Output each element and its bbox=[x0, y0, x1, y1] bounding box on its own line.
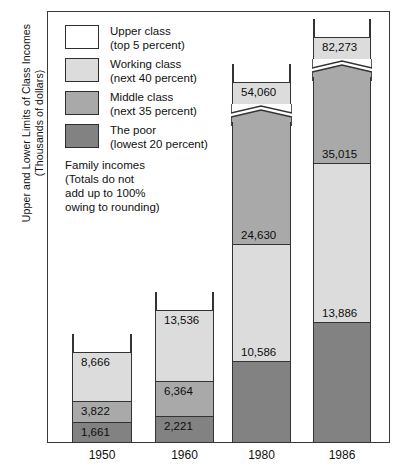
bar-1986-working-value: 82,273 bbox=[322, 41, 357, 53]
legend-item-middle: Middle class (next 35 percent) bbox=[65, 91, 255, 118]
legend-title-poor: The poor bbox=[110, 124, 156, 136]
bar-1950-poor-segment: 1,661 bbox=[72, 422, 132, 443]
legend-title-middle: Middle class bbox=[110, 91, 173, 103]
bar-1986: 82,273 35,015 13,886 bbox=[313, 37, 371, 443]
x-axis-label-1960: 1960 bbox=[155, 448, 214, 462]
bar-1980-middle-value: 24,630 bbox=[241, 229, 276, 241]
y-axis-label: Upper and Lower Limits of Class Incomes … bbox=[20, 0, 46, 248]
legend-item-poor: The poor (lowest 20 percent) bbox=[65, 124, 255, 151]
bar-1950: 8,666 3,822 1,661 bbox=[72, 352, 132, 443]
legend-swatch-working bbox=[65, 58, 99, 82]
bar-1960-working-value: 13,536 bbox=[164, 314, 199, 326]
legend-title-upper: Upper class bbox=[110, 25, 171, 37]
bar-1986-poor-segment bbox=[313, 322, 371, 443]
legend-title-working: Working class bbox=[110, 58, 181, 70]
x-axis-label-1950: 1950 bbox=[72, 448, 132, 462]
bar-1960-upper-cap bbox=[155, 292, 214, 311]
bar-1980-middle-segment: 24,630 bbox=[232, 122, 291, 245]
legend-sub-poor: (lowest 20 percent) bbox=[110, 138, 208, 152]
legend: Upper class (top 5 percent) Working clas… bbox=[65, 25, 255, 157]
bar-1980: 54,060 24,630 10,586 bbox=[232, 82, 291, 443]
legend-sub-middle: (next 35 percent) bbox=[110, 105, 197, 119]
bar-1960-poor-segment: 2,221 bbox=[155, 416, 214, 443]
bar-1980-working-segment: 54,060 bbox=[232, 82, 291, 106]
bar-1950-middle-segment: 3,822 bbox=[72, 401, 132, 423]
legend-label-middle: Middle class (next 35 percent) bbox=[110, 91, 197, 118]
legend-label-poor: The poor (lowest 20 percent) bbox=[110, 124, 208, 151]
bar-1950-upper-cap bbox=[72, 334, 132, 353]
bar-1986-working-lower-segment: 13,886 bbox=[313, 163, 371, 323]
bar-1960-working-segment: 13,536 bbox=[155, 310, 214, 382]
bar-1950-middle-value: 3,822 bbox=[81, 405, 110, 417]
bar-1986-middle-segment: 35,015 bbox=[313, 77, 371, 164]
legend-swatch-upper bbox=[65, 25, 99, 49]
legend-label-upper: Upper class (top 5 percent) bbox=[110, 25, 185, 52]
legend-item-upper: Upper class (top 5 percent) bbox=[65, 25, 255, 52]
legend-label-working: Working class (next 40 percent) bbox=[110, 58, 197, 85]
legend-swatch-poor bbox=[65, 124, 99, 148]
chart-root: Upper and Lower Limits of Class Incomes … bbox=[0, 0, 406, 472]
bar-1980-poor-value: 10,586 bbox=[241, 346, 276, 358]
bar-1986-poor-value: 13,886 bbox=[322, 307, 357, 319]
bar-1986-upper-cap bbox=[313, 19, 371, 38]
legend-item-working: Working class (next 40 percent) bbox=[65, 58, 255, 85]
bar-1980-upper-cap bbox=[232, 64, 291, 83]
chart-note: Family incomes (Totals do not add up to … bbox=[65, 158, 160, 214]
bar-1950-working-value: 8,666 bbox=[81, 356, 110, 368]
bar-1960-middle-segment: 6,364 bbox=[155, 381, 214, 417]
bar-1986-working-segment: 82,273 bbox=[313, 37, 371, 61]
x-axis-label-1980: 1980 bbox=[232, 448, 291, 462]
x-axis-label-1986: 1986 bbox=[313, 448, 371, 462]
bar-1950-working-segment: 8,666 bbox=[72, 352, 132, 402]
legend-sub-working: (next 40 percent) bbox=[110, 72, 197, 86]
bar-1980-poor-segment bbox=[232, 361, 291, 443]
legend-sub-upper: (top 5 percent) bbox=[110, 39, 185, 53]
bar-1960-poor-value: 2,221 bbox=[164, 420, 193, 432]
legend-swatch-middle bbox=[65, 91, 99, 115]
bar-1950-poor-value: 1,661 bbox=[81, 426, 110, 438]
bar-1986-middle-value: 35,015 bbox=[322, 148, 357, 160]
bar-1960-middle-value: 6,364 bbox=[164, 385, 193, 397]
bar-1980-working-value: 54,060 bbox=[241, 86, 276, 98]
bar-1960: 13,536 6,364 2,221 bbox=[155, 310, 214, 443]
bar-1980-working-lower-segment: 10,586 bbox=[232, 244, 291, 362]
